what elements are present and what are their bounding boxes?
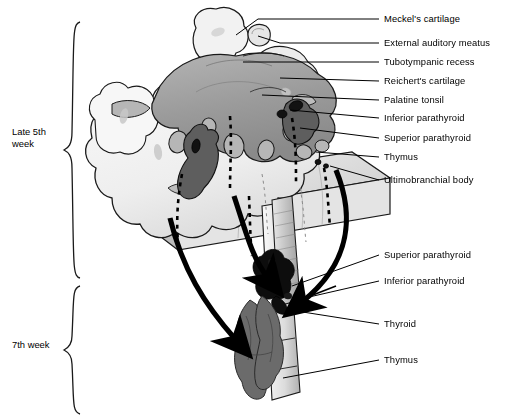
superior-parathyroid-node xyxy=(268,259,276,265)
stage-label-7th-week: 7th week xyxy=(12,339,50,351)
callout-superior-parathyroid-1: Superior parathyroid xyxy=(384,132,471,143)
callout-superior-parathyroid-2: Superior parathyroid xyxy=(384,249,471,260)
dashed-path-2 xyxy=(230,116,231,190)
callout-palatine-tonsil: Palatine tonsil xyxy=(384,94,444,105)
callout-thyroid: Thyroid xyxy=(384,318,416,329)
callout-external-auditory-meatus: External auditory meatus xyxy=(384,37,490,48)
stage-label-late-5th-week: Late 5th week xyxy=(12,126,46,150)
figure-canvas: Late 5th week 7th week Meckel's cartilag… xyxy=(0,0,506,420)
callout-meckels-cartilage: Meckel's cartilage xyxy=(384,13,460,24)
stage-label-line2: week xyxy=(12,138,46,150)
stage-label-line1: 7th week xyxy=(12,339,50,351)
callout-tubotympanic-recess: Tubotympanic recess xyxy=(384,56,475,67)
brace-late-5th-week xyxy=(64,22,80,278)
stage-braces xyxy=(64,22,80,414)
callout-inferior-parathyroid-1: Inferior parathyroid xyxy=(384,112,465,123)
callout-inferior-parathyroid-2: Inferior parathyroid xyxy=(384,275,465,286)
callout-reicherts-cartilage: Reichert's cartilage xyxy=(384,75,465,86)
callout-ultimobranchial-body: Ultimobranchial body xyxy=(384,174,474,185)
callout-thymus-2: Thymus xyxy=(384,354,418,365)
stage-label-line1: Late 5th xyxy=(12,126,46,138)
leader-thyroid xyxy=(290,310,379,324)
inferior-parathyroid-node xyxy=(284,293,292,299)
leader-external-auditory-meatus xyxy=(258,36,379,43)
brace-7th-week xyxy=(64,286,80,414)
callout-thymus-1: Thymus xyxy=(384,151,418,162)
external-auditory-meatus-structure xyxy=(248,24,270,45)
